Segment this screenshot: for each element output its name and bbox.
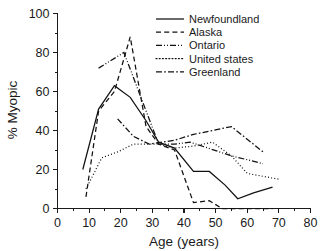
x-tick-label: 10 [82, 216, 96, 230]
legend-label-4: Greenland [189, 66, 240, 78]
y-tick-label: 80 [36, 46, 50, 60]
x-tick-label: 0 [54, 216, 61, 230]
chart-figure: 020406080100 01020304050607080 Age (year… [0, 0, 331, 251]
x-tick-label: 40 [177, 216, 191, 230]
y-tick-label: 100 [29, 7, 50, 21]
legend-label-3: United states [189, 53, 254, 65]
y-tick-label: 60 [36, 85, 50, 99]
legend-label-0: Newfoundland [189, 13, 259, 25]
chart-legend: NewfoundlandAlaskaOntarioUnited statesGr… [156, 13, 259, 78]
x-tick-label: 60 [240, 216, 254, 230]
x-axis-ticks [58, 209, 311, 214]
series-line-0 [83, 86, 273, 199]
x-tick-label: 70 [272, 216, 286, 230]
x-tick-label: 30 [145, 216, 159, 230]
y-tick-label: 0 [43, 202, 50, 216]
y-tick-label: 20 [36, 163, 50, 177]
y-axis-tick-labels: 020406080100 [29, 7, 50, 216]
y-tick-label: 40 [36, 124, 50, 138]
x-tick-label: 50 [209, 216, 223, 230]
x-axis-tick-labels: 01020304050607080 [54, 216, 317, 230]
series-line-3 [86, 142, 279, 189]
series-line-4 [118, 119, 263, 152]
y-axis-title: % Myopic [5, 80, 20, 139]
x-tick-label: 80 [304, 216, 318, 230]
legend-label-1: Alaska [189, 26, 223, 38]
x-axis-title: Age (years) [149, 234, 219, 249]
x-tick-label: 20 [114, 216, 128, 230]
legend-label-2: Ontario [189, 39, 225, 51]
y-axis-ticks [53, 14, 58, 209]
line-chart: 020406080100 01020304050607080 Age (year… [0, 0, 331, 251]
